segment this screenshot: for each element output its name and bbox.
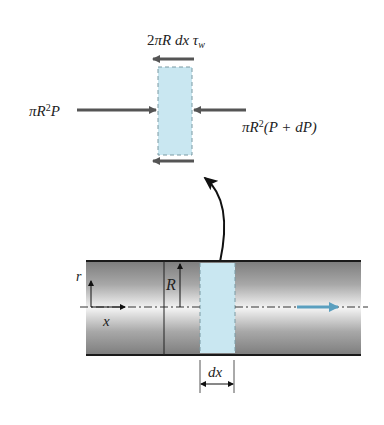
pi-symbol: π [155,32,163,48]
radius-symbol: R [250,119,259,135]
pressure-symbol: P [51,103,60,119]
pressure-expression: (P + dP) [264,119,317,135]
dx-symbol: dx [175,32,189,48]
tau-subscript: w [198,39,205,50]
radius-symbol: R [37,103,46,119]
x-axis-label: x [103,314,110,329]
fluid-element-free-body [77,59,246,161]
curved-link-arrow [205,178,224,262]
pipe-section [80,261,368,355]
r-axis-label: r [76,270,81,284]
diagram-canvas [0,0,384,425]
shear-coeff: 2 [147,32,155,48]
fluid-element-box [158,67,192,155]
shear-force-label: 2πR dx τw [147,33,205,50]
left-force-label: πR2P [29,103,60,119]
pi-symbol: π [242,119,250,135]
radius-label: R [166,277,176,293]
radius-symbol: R [162,32,171,48]
dx-label: dx [208,365,222,380]
right-force-label: πR2(P + dP) [242,119,317,135]
pipe-slice-dx [200,263,235,353]
pi-symbol: π [29,103,37,119]
